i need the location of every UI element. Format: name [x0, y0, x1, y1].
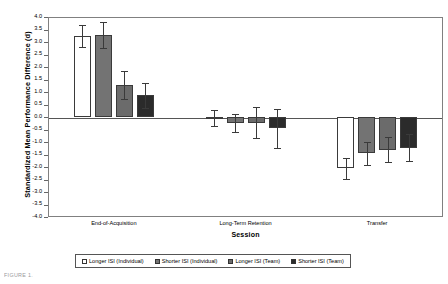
error-bar-cap [406, 134, 413, 135]
error-bar-cap [211, 110, 218, 111]
y-axis-tick-label: -0.5 [32, 125, 42, 131]
y-axis-tick-label: -3.5 [32, 200, 42, 206]
y-axis-tick-label: 0.5 [34, 100, 42, 106]
legend-swatch-icon [291, 259, 296, 264]
chart-legend: Longer ISI (Individual)Shorter ISI (Indi… [75, 254, 351, 268]
error-bar-cap [211, 126, 218, 127]
error-bar-cap [100, 48, 107, 49]
y-axis-tick-label: 3.5 [34, 25, 42, 31]
error-bar-cap [343, 158, 350, 159]
legend-item[interactable]: Shorter ISI (Individual) [155, 258, 218, 264]
error-bar-cap [232, 132, 239, 133]
y-axis-title: Standardized Mean Performance Difference… [23, 0, 32, 230]
error-bar [388, 137, 389, 162]
y-axis-tick-label: 4.0 [34, 13, 42, 19]
error-bar-cap [364, 142, 371, 143]
error-bar [277, 109, 278, 148]
error-bar-cap [121, 71, 128, 72]
error-bar-cap [406, 161, 413, 162]
x-axis-group-label: Long-Term Retention [219, 220, 271, 226]
error-bar [346, 158, 347, 179]
error-bar-cap [253, 107, 260, 108]
error-bar [82, 25, 83, 48]
error-bar [103, 22, 104, 48]
y-axis-tick-mark [44, 217, 48, 218]
error-bar-cap [385, 137, 392, 138]
legend-swatch-icon [155, 259, 160, 264]
legend-item-label: Longer ISI (Team) [235, 258, 280, 264]
error-bar-cap [121, 99, 128, 100]
error-bar-cap [142, 83, 149, 84]
error-bar-cap [253, 138, 260, 139]
y-axis-tick-label: -4.0 [32, 213, 42, 219]
y-axis-tick-label: -3.0 [32, 188, 42, 194]
error-bar [145, 83, 146, 108]
figure-container: Standardized Mean Performance Difference… [0, 0, 448, 284]
x-axis-title: Session [48, 231, 443, 238]
error-bar-cap [274, 148, 281, 149]
error-bar [409, 134, 410, 162]
legend-item-label: Shorter ISI (Individual) [162, 258, 218, 264]
error-bar-cap [79, 25, 86, 26]
y-axis-tick-label: -2.0 [32, 163, 42, 169]
error-bar-cap [385, 162, 392, 163]
y-axis-tick-label: 3.0 [34, 38, 42, 44]
error-bar [124, 71, 125, 99]
x-axis-group-label: End-of-Acquisition [91, 220, 136, 226]
y-axis-tick-label: -1.5 [32, 150, 42, 156]
caption-fragment: FIGURE 1. [4, 272, 33, 279]
x-axis-group-label: Transfer [367, 220, 388, 226]
legend-item[interactable]: Longer ISI (Individual) [82, 258, 144, 264]
legend-item[interactable]: Longer ISI (Team) [228, 258, 280, 264]
error-bar-cap [364, 165, 371, 166]
error-bar-cap [232, 114, 239, 115]
error-bar [367, 142, 368, 165]
y-axis-tick-label: 1.0 [34, 88, 42, 94]
y-axis-tick-label: 1.5 [34, 75, 42, 81]
y-axis-tick-label: -1.0 [32, 138, 42, 144]
legend-swatch-icon [82, 259, 87, 264]
y-axis-tick-label: 2.0 [34, 63, 42, 69]
legend-item-label: Longer ISI (Individual) [89, 258, 144, 264]
y-axis-tick-label: 0.0 [34, 113, 42, 119]
legend-item-label: Shorter ISI (Team) [298, 258, 344, 264]
error-bar-cap [79, 47, 86, 48]
legend-item[interactable]: Shorter ISI (Team) [291, 258, 344, 264]
error-bar [235, 114, 236, 132]
error-bar-cap [274, 109, 281, 110]
error-bar-cap [100, 22, 107, 23]
y-axis-tick-label: 2.5 [34, 50, 42, 56]
bars-layer [48, 17, 443, 217]
error-bar [214, 110, 215, 126]
error-bar-cap [142, 108, 149, 109]
y-axis-tick-label: -2.5 [32, 175, 42, 181]
error-bar [256, 107, 257, 138]
legend-swatch-icon [228, 259, 233, 264]
error-bar-cap [343, 179, 350, 180]
